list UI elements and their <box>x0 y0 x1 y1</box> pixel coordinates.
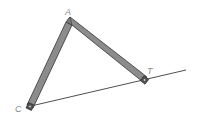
linkage-diagram: A T C <box>0 0 201 120</box>
bar-ca <box>27 22 72 108</box>
label-a: A <box>64 7 71 17</box>
bar-at <box>67 17 147 82</box>
label-c: C <box>15 104 22 114</box>
reference-line <box>31 70 186 106</box>
label-t: T <box>147 66 154 76</box>
